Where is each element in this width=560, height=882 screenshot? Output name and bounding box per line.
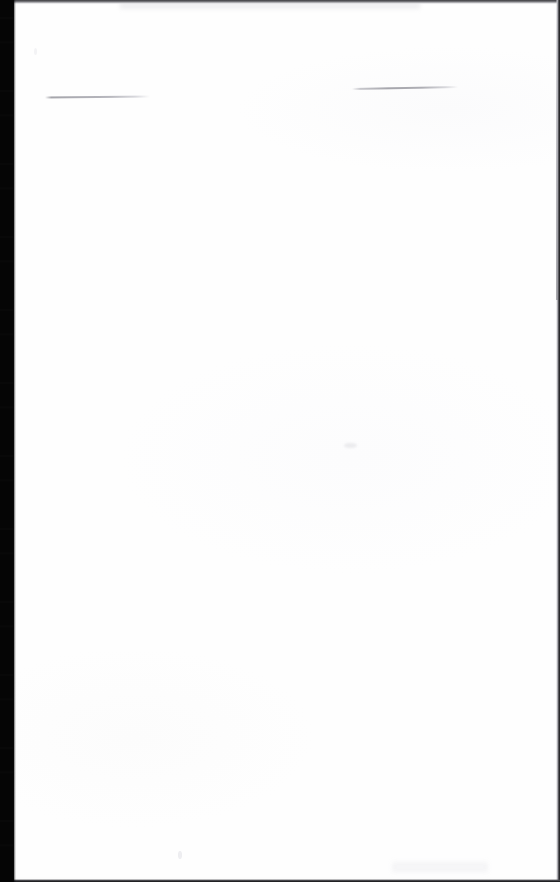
gutter-edge-fade bbox=[13, 0, 16, 882]
right-edge-line-upper bbox=[556, 0, 558, 300]
scanned-page bbox=[0, 0, 560, 882]
paper-surface bbox=[14, 5, 556, 877]
top-edge-line bbox=[14, 0, 560, 4]
gutter-streak-noise bbox=[0, 0, 14, 882]
scanner-gutter-band bbox=[0, 0, 14, 882]
smudge-lower-right bbox=[392, 862, 488, 872]
